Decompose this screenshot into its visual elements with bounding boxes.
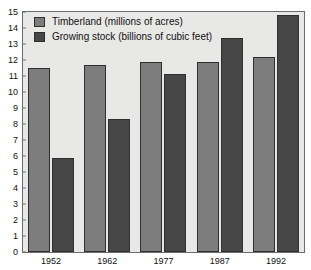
bar-1962-timberland [84, 65, 106, 252]
y-axis-tick-mark [22, 156, 26, 157]
legend-label-growing-stock: Growing stock (billions of cubic feet) [52, 31, 212, 42]
y-axis-tick-mark [22, 28, 26, 29]
y-axis-tick-label: 2 [0, 216, 18, 225]
legend: Timberland (millions of acres) Growing s… [34, 16, 212, 42]
y-axis-tick-label: 8 [0, 120, 18, 129]
bar-group [79, 12, 135, 252]
legend-swatch-growing-stock [34, 32, 45, 42]
y-axis-tick-mark [22, 124, 26, 125]
legend-item-timberland: Timberland (millions of acres) [34, 16, 212, 27]
y-axis-tick-label: 5 [0, 168, 18, 177]
y-axis-tick-mark [22, 188, 26, 189]
y-axis-tick-mark [22, 60, 26, 61]
plot-area [23, 12, 304, 252]
legend-item-growing-stock: Growing stock (billions of cubic feet) [34, 31, 212, 42]
y-axis-tick-mark [22, 92, 26, 93]
y-axis-tick-mark [22, 12, 26, 13]
y-axis-tick-mark [22, 44, 26, 45]
y-axis-tick-label: 12 [0, 56, 18, 65]
bar-1952-growing-stock [52, 158, 74, 252]
y-axis-tick-label: 13 [0, 40, 18, 49]
y-axis-tick-label: 7 [0, 136, 18, 145]
y-axis-tick-mark [22, 252, 26, 253]
bar-group [248, 12, 304, 252]
bar-1962-growing-stock [108, 119, 130, 252]
bar-chart: 0123456789101112131415 19521962197719871… [0, 0, 311, 270]
bar-group [135, 12, 191, 252]
y-axis-tick-mark [22, 76, 26, 77]
y-axis-tick-mark [22, 220, 26, 221]
x-axis-tick-label: 1987 [210, 256, 230, 267]
bar-1977-growing-stock [164, 74, 186, 252]
y-axis-tick-label: 3 [0, 200, 18, 209]
y-axis-tick-label: 11 [0, 72, 18, 81]
bar-1977-timberland [140, 62, 162, 252]
bar-1992-growing-stock [277, 15, 299, 252]
y-axis-tick-mark [22, 204, 26, 205]
y-axis-tick-mark [22, 172, 26, 173]
x-axis-tick-label: 1952 [41, 256, 61, 267]
legend-swatch-timberland [34, 17, 45, 27]
y-axis-tick-label: 0 [0, 248, 18, 257]
y-axis-tick-label: 15 [0, 8, 18, 17]
y-axis-tick-label: 6 [0, 152, 18, 161]
y-axis-tick-mark [22, 236, 26, 237]
bar-group [192, 12, 248, 252]
y-axis-tick-label: 1 [0, 232, 18, 241]
x-axis-tick-label: 1992 [266, 256, 286, 267]
y-axis-tick-mark [22, 108, 26, 109]
bar-1992-timberland [253, 57, 275, 252]
y-axis: 0123456789101112131415 [0, 12, 18, 252]
bar-group [23, 12, 79, 252]
legend-label-timberland: Timberland (millions of acres) [52, 16, 183, 27]
bar-1987-timberland [197, 62, 219, 252]
bar-1952-timberland [28, 68, 50, 252]
y-axis-tick-label: 4 [0, 184, 18, 193]
y-axis-tick-label: 14 [0, 24, 18, 33]
y-axis-tick-label: 10 [0, 88, 18, 97]
y-axis-tick-mark [22, 140, 26, 141]
x-axis: 19521962197719871992 [23, 256, 304, 270]
y-axis-tick-label: 9 [0, 104, 18, 113]
x-axis-tick-label: 1977 [153, 256, 173, 267]
x-axis-tick-label: 1962 [97, 256, 117, 267]
bar-1987-growing-stock [221, 38, 243, 252]
